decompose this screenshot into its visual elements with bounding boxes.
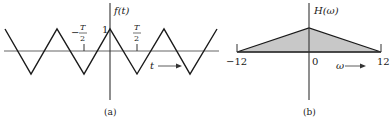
panel-a-caption: (a) [104, 107, 116, 117]
panel-a: f(t) 1 − T 2 T 2 t (a) [4, 3, 219, 117]
h-axis-label: H(ω) [313, 5, 339, 16]
peak-value-label: 1 [102, 24, 108, 35]
t-axis-label: t [150, 60, 155, 71]
neg-half-num: T [80, 23, 86, 32]
t-arrow-head-icon [176, 64, 182, 69]
tick-right-label: 12 [377, 56, 390, 67]
panel-b-caption: (b) [303, 107, 316, 117]
panel-b: H(ω) −12 0 12 ω (b) [226, 3, 390, 117]
omega-arrow-head-icon [360, 64, 366, 69]
figure: f(t) 1 − T 2 T 2 t (a) H(ω) −12 0 12 ω [0, 0, 392, 127]
omega-axis-label: ω [336, 60, 344, 71]
neg-sign: − [71, 27, 79, 38]
diagram-canvas: f(t) 1 − T 2 T 2 t (a) H(ω) −12 0 12 ω [0, 0, 392, 127]
pos-half-num: T [134, 23, 140, 32]
f-axis-label: f(t) [113, 5, 130, 16]
tick-center-label: 0 [312, 56, 318, 67]
neg-half-den: 2 [80, 34, 85, 43]
pos-half-den: 2 [134, 34, 139, 43]
tick-left-label: −12 [226, 56, 247, 67]
